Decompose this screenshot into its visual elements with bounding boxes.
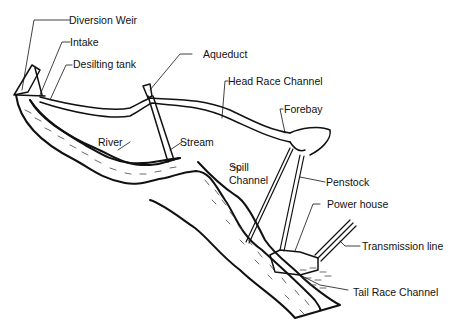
label-spill: Spill	[229, 161, 249, 173]
label-head-race-channel: Head Race Channel	[228, 75, 323, 87]
spill-channel-shape	[246, 148, 293, 243]
transmission-line-shape	[315, 220, 356, 261]
hydropower-diagram: Diversion Weir Intake Desilting tank Aqu…	[0, 0, 459, 334]
stream-shape	[143, 84, 174, 162]
label-intake: Intake	[70, 36, 99, 48]
label-forebay: Forebay	[284, 103, 323, 115]
label-channel: Channel	[229, 174, 268, 186]
label-aqueduct: Aqueduct	[203, 48, 247, 60]
label-desilting-tank: Desilting tank	[73, 58, 136, 70]
label-penstock: Penstock	[326, 176, 369, 188]
label-tail-race-channel: Tail Race Channel	[353, 286, 438, 298]
label-diversion-weir: Diversion Weir	[69, 14, 137, 26]
label-river: River	[98, 136, 123, 148]
label-power-house: Power house	[327, 198, 388, 210]
river-shape	[16, 95, 340, 318]
label-stream: Stream	[180, 136, 214, 148]
label-transmission-line: Transmission line	[362, 240, 443, 252]
diversion-weir-shape	[14, 65, 45, 96]
